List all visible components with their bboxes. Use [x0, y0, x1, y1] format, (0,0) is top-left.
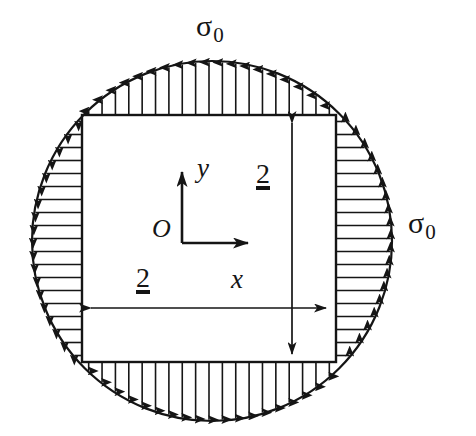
sigma-label-right: σ0 — [408, 206, 436, 245]
vertical-dimension-value: 2 — [256, 158, 270, 189]
vertical-dimension-label: 2 — [256, 158, 270, 190]
diagram-canvas — [0, 0, 476, 436]
x-axis-label: x — [231, 264, 243, 295]
horizontal-dimension-value: 2 — [136, 262, 150, 293]
origin-label: O — [152, 214, 171, 244]
horizontal-dimension-label: 2 — [136, 262, 150, 294]
sigma-glyph-top: σ — [196, 9, 212, 42]
traction-arrows-bottom — [89, 362, 330, 420]
traction-arrows-left — [33, 122, 82, 356]
stress-diagram-figure: σ0 σ0 y x O 2 2 — [0, 0, 476, 436]
coordinate-axes — [182, 172, 248, 243]
traction-arrows-right — [336, 122, 391, 356]
sigma-subscript-top: 0 — [212, 23, 224, 47]
sigma-glyph-right: σ — [408, 206, 424, 239]
y-axis-label: y — [197, 153, 209, 184]
sigma-label-top: σ0 — [196, 9, 224, 48]
square-plate-outline — [82, 115, 336, 362]
sigma-subscript-right: 0 — [424, 220, 436, 244]
traction-arrows-top — [89, 62, 330, 115]
